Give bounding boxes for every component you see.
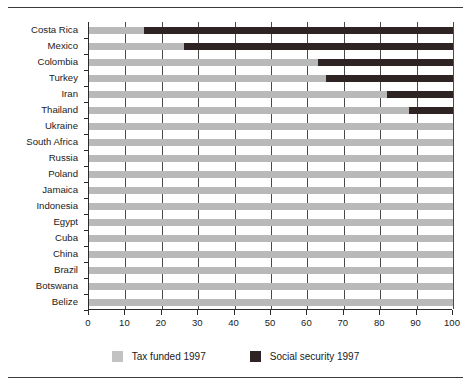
bar-row bbox=[89, 102, 452, 118]
legend-label: Tax funded 1997 bbox=[132, 351, 206, 362]
bar-row bbox=[89, 118, 452, 134]
bar-segment bbox=[89, 75, 326, 82]
plot-area bbox=[88, 22, 452, 310]
bar-segment bbox=[89, 299, 453, 306]
bar-row bbox=[89, 230, 452, 246]
x-axis-label: 80 bbox=[374, 317, 385, 328]
x-axis-tick bbox=[88, 310, 89, 315]
x-axis-label: 50 bbox=[265, 317, 276, 328]
bar-row bbox=[89, 198, 452, 214]
bar-segment bbox=[89, 219, 453, 226]
x-axis-label: 10 bbox=[119, 317, 130, 328]
bar-segment bbox=[89, 123, 453, 130]
bar-row bbox=[89, 278, 452, 294]
bar-rows bbox=[89, 22, 452, 309]
bar-row bbox=[89, 86, 452, 102]
bar-segment bbox=[89, 43, 184, 50]
bar-segment bbox=[89, 107, 409, 114]
x-axis-tick bbox=[343, 310, 344, 315]
x-axis-label: 0 bbox=[85, 317, 90, 328]
page-rule-bottom bbox=[8, 377, 463, 378]
y-axis-label: Thailand bbox=[0, 104, 78, 115]
bar-row bbox=[89, 150, 452, 166]
x-axis-tick bbox=[234, 310, 235, 315]
y-axis-label: Botswana bbox=[0, 280, 78, 291]
y-axis-label: Costa Rica bbox=[0, 24, 78, 35]
y-axis-label: Colombia bbox=[0, 56, 78, 67]
y-axis-label: Ukraine bbox=[0, 120, 78, 131]
x-axis-label: 20 bbox=[156, 317, 167, 328]
x-axis-label: 40 bbox=[228, 317, 239, 328]
bar-row bbox=[89, 182, 452, 198]
x-axis-tick bbox=[452, 310, 453, 315]
bar-segment bbox=[184, 43, 453, 50]
x-axis-label: 90 bbox=[410, 317, 421, 328]
x-axis-label: 60 bbox=[301, 317, 312, 328]
bar-segment bbox=[326, 75, 453, 82]
chart-figure: Costa RicaMexicoColombiaTurkeyIranThaila… bbox=[0, 0, 471, 384]
gridline-100 bbox=[453, 22, 454, 309]
y-axis-label: Iran bbox=[0, 88, 78, 99]
bar-row bbox=[89, 166, 452, 182]
bar-segment bbox=[89, 155, 453, 162]
y-axis-label: Brazil bbox=[0, 264, 78, 275]
bar-segment bbox=[318, 59, 453, 66]
y-axis-label: Egypt bbox=[0, 216, 78, 227]
bar-segment bbox=[89, 187, 453, 194]
bar-row bbox=[89, 214, 452, 230]
legend-item: Social security 1997 bbox=[250, 351, 360, 362]
x-axis-tick bbox=[416, 310, 417, 315]
bar-segment bbox=[89, 203, 453, 210]
bar-row bbox=[89, 54, 452, 70]
x-axis-label: 100 bbox=[444, 317, 460, 328]
x-axis-tick bbox=[306, 310, 307, 315]
bar-row bbox=[89, 38, 452, 54]
x-axis-tick bbox=[197, 310, 198, 315]
x-axis-tick bbox=[270, 310, 271, 315]
y-axis-category-labels: Costa RicaMexicoColombiaTurkeyIranThaila… bbox=[0, 22, 84, 310]
bar-segment bbox=[409, 107, 453, 114]
y-axis-label: Poland bbox=[0, 168, 78, 179]
bar-segment bbox=[144, 27, 453, 34]
bar-row bbox=[89, 294, 452, 310]
x-axis-tick bbox=[161, 310, 162, 315]
bar-segment bbox=[89, 267, 453, 274]
bar-segment bbox=[89, 283, 453, 290]
x-axis: 0102030405060708090100 bbox=[88, 310, 452, 336]
bar-segment bbox=[387, 91, 453, 98]
bar-row bbox=[89, 262, 452, 278]
y-axis-label: Indonesia bbox=[0, 200, 78, 211]
x-axis-label: 30 bbox=[192, 317, 203, 328]
y-axis-label: South Africa bbox=[0, 136, 78, 147]
legend-item: Tax funded 1997 bbox=[112, 351, 206, 362]
y-axis-label: Russia bbox=[0, 152, 78, 163]
y-axis-label: China bbox=[0, 248, 78, 259]
legend-label: Social security 1997 bbox=[270, 351, 360, 362]
bar-row bbox=[89, 134, 452, 150]
legend-swatch-icon bbox=[112, 351, 123, 362]
page-rule-top bbox=[8, 7, 463, 8]
y-axis-label: Jamaica bbox=[0, 184, 78, 195]
bar-row bbox=[89, 246, 452, 262]
bar-row bbox=[89, 22, 452, 38]
x-axis-label: 70 bbox=[338, 317, 349, 328]
bar-segment bbox=[89, 235, 453, 242]
bar-row bbox=[89, 70, 452, 86]
bar-segment bbox=[89, 251, 453, 258]
x-axis-tick bbox=[124, 310, 125, 315]
bar-segment bbox=[89, 139, 453, 146]
y-axis-label: Belize bbox=[0, 296, 78, 307]
chart-legend: Tax funded 1997Social security 1997 bbox=[0, 345, 471, 367]
x-axis-tick bbox=[379, 310, 380, 315]
bar-segment bbox=[89, 59, 318, 66]
bar-segment bbox=[89, 171, 453, 178]
bar-segment bbox=[89, 91, 387, 98]
bar-segment bbox=[89, 27, 144, 34]
y-axis-label: Turkey bbox=[0, 72, 78, 83]
y-axis-label: Mexico bbox=[0, 40, 78, 51]
y-axis-label: Cuba bbox=[0, 232, 78, 243]
legend-swatch-icon bbox=[250, 351, 261, 362]
